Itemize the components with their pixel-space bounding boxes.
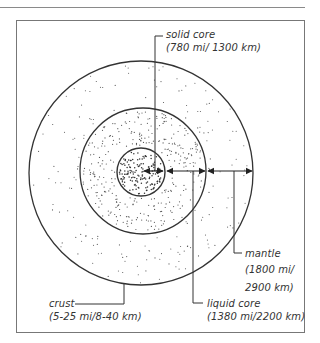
- inner-circle-solid-core: [117, 148, 165, 196]
- mantle-label: mantle (1800 mi/ 2900 km): [245, 247, 294, 294]
- mantle-stipple: [33, 66, 247, 284]
- mantle-name: mantle: [245, 247, 294, 260]
- crust-label: crust (5-25 mi/8-40 km): [49, 297, 142, 323]
- solid-core-name: solid core: [166, 28, 261, 41]
- mantle-leader: [234, 171, 242, 253]
- solid-core-leader: [155, 36, 163, 171]
- solid-core-label: solid core (780 mi/ 1300 km): [166, 28, 261, 54]
- liquid-core-name: liquid core: [207, 297, 305, 310]
- mantle-thickness-line2: 2900 km): [245, 281, 294, 294]
- liquid-core-label: liquid core (1380 mi/2200 km): [207, 297, 305, 323]
- liquid-core-thickness: (1380 mi/2200 km): [207, 310, 305, 323]
- liquid-core-leader: [193, 171, 203, 303]
- solid-core-thickness: (780 mi/ 1300 km): [166, 41, 261, 54]
- crust-thickness: (5-25 mi/8-40 km): [49, 310, 142, 323]
- crust-name: crust: [49, 297, 142, 310]
- mantle-thickness-line1: (1800 mi/: [245, 263, 294, 276]
- outer-circle-crust: [29, 61, 253, 285]
